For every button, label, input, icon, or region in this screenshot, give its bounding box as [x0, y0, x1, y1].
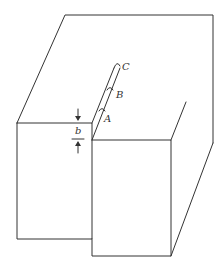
- arrow-up-icon: [75, 141, 81, 146]
- right-block-top-diagonal: [171, 102, 186, 140]
- label-c: C: [122, 61, 130, 72]
- arrow-down-icon: [75, 116, 81, 121]
- right-back-edge: [171, 143, 213, 256]
- top-face-edge: [17, 15, 213, 143]
- left-block-front-face: [17, 123, 92, 239]
- label-b-point: B: [115, 89, 123, 100]
- block-diagram: C B A b: [0, 0, 222, 266]
- crack-tip-c: [114, 63, 120, 68]
- crack-right-edge: [92, 68, 120, 140]
- right-block-front-face: [92, 140, 171, 256]
- label-a: A: [103, 113, 111, 124]
- label-dimension-b: b: [75, 125, 81, 136]
